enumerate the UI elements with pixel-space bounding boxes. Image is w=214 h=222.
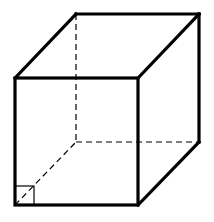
edge-top-right-diagonal	[138, 14, 199, 78]
cube-diagram	[0, 0, 214, 222]
edge-top-left-diagonal	[15, 14, 76, 78]
hidden-edge-bottom-left-diagonal	[15, 142, 76, 205]
cube-figure	[0, 0, 214, 222]
edge-bottom-right-diagonal	[138, 142, 199, 205]
